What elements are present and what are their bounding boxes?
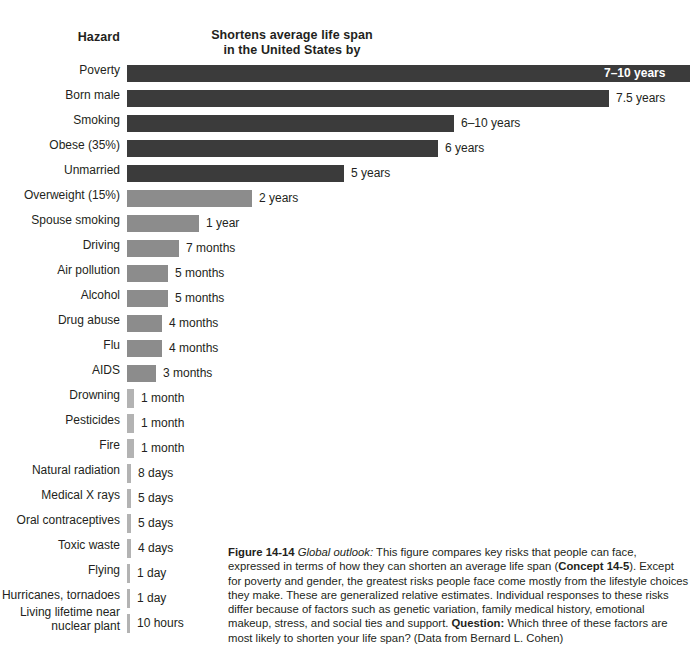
- bar-value-label: 4 months: [169, 341, 218, 356]
- hazard-label: Fire: [0, 438, 120, 452]
- bar-mid: [127, 315, 162, 332]
- chart-row: Spouse smoking1 year: [0, 213, 694, 238]
- bar-mid: [127, 240, 179, 257]
- bar-mid: [127, 215, 199, 232]
- chart-row: Overweight (15%)2 years: [0, 188, 694, 213]
- chart-row: Natural radiation8 days: [0, 463, 694, 488]
- chart-row: Born male7.5 years: [0, 88, 694, 113]
- figure-14-14: Hazard Shortens average life span in the…: [0, 0, 694, 652]
- chart-row: Oral contraceptives5 days: [0, 513, 694, 538]
- bar-light: [127, 439, 134, 458]
- bar-light: [127, 514, 131, 533]
- caption-lead-italic: Global outlook:: [298, 546, 373, 558]
- bar-value-label: 5 days: [138, 491, 173, 506]
- bar-mid: [127, 190, 252, 207]
- hazard-label: Born male: [0, 88, 120, 102]
- chart-row: Obese (35%)6 years: [0, 138, 694, 163]
- hazard-label: Poverty: [0, 63, 120, 77]
- hazard-label: Natural radiation: [0, 463, 120, 477]
- chart-row: Drug abuse4 months: [0, 313, 694, 338]
- caption-concept-ref: Concept 14-5: [558, 560, 629, 572]
- chart-header: Hazard Shortens average life span in the…: [0, 30, 694, 62]
- figure-caption: Figure 14-14 Global outlook: This figure…: [228, 545, 690, 645]
- bar-light: [127, 589, 130, 608]
- hazard-label: Overweight (15%): [0, 188, 120, 202]
- bar-value-label: 4 days: [138, 541, 173, 556]
- bar-value-label: 2 years: [259, 191, 298, 206]
- hazard-label: Flying: [0, 563, 120, 577]
- bar-value-label: 1 month: [141, 441, 184, 456]
- hazard-column-header: Hazard: [0, 30, 120, 44]
- hazard-label: Obese (35%): [0, 138, 120, 152]
- hazard-label: Drug abuse: [0, 313, 120, 327]
- hazard-label: Drowning: [0, 388, 120, 402]
- chart-row: Pesticides1 month: [0, 413, 694, 438]
- hazard-label: Spouse smoking: [0, 213, 120, 227]
- bar-dark: [127, 140, 438, 157]
- caption-figure-number: Figure 14-14: [228, 546, 295, 558]
- bar-value-label: 1 year: [206, 216, 239, 231]
- hazard-label: Driving: [0, 238, 120, 252]
- bar-value-label: 5 years: [351, 166, 390, 181]
- bar-light: [127, 464, 131, 483]
- bar-value-label: 7–10 years: [604, 66, 665, 81]
- hazard-label: Oral contraceptives: [0, 513, 120, 527]
- bar-value-label: 7.5 years: [616, 91, 665, 106]
- hazard-label: AIDS: [0, 363, 120, 377]
- caption-question-label: Question:: [452, 617, 505, 629]
- chart-row: Medical X rays5 days: [0, 488, 694, 513]
- bar-dark: [127, 165, 344, 182]
- bar-dark: [127, 115, 454, 132]
- hazard-label: Air pollution: [0, 263, 120, 277]
- hazard-label: Living lifetime near nuclear plant: [0, 606, 120, 633]
- bar-value-label: 10 hours: [137, 616, 184, 631]
- bar-value-label: 7 months: [186, 241, 235, 256]
- bar-value-label: 5 months: [175, 291, 224, 306]
- bar-light: [127, 564, 130, 583]
- axis-header-line2: in the United States by: [223, 43, 360, 57]
- bar-value-label: 1 month: [141, 416, 184, 431]
- bar-value-label: 4 months: [169, 316, 218, 331]
- bar-light: [127, 489, 131, 508]
- chart-row: Poverty7–10 years: [0, 63, 694, 88]
- bar-value-label: 3 months: [163, 366, 212, 381]
- bar-value-label: 1 day: [137, 566, 166, 581]
- bar-value-label: 5 days: [138, 516, 173, 531]
- axis-column-header: Shortens average life span in the United…: [127, 28, 457, 58]
- bar-value-label: 6–10 years: [461, 116, 520, 131]
- chart-row: Flu4 months: [0, 338, 694, 363]
- bar-light: [127, 614, 130, 633]
- bar-value-label: 8 days: [138, 466, 173, 481]
- hazard-label: Unmarried: [0, 163, 120, 177]
- bar-mid: [127, 340, 162, 357]
- chart-row: Smoking6–10 years: [0, 113, 694, 138]
- bar-mid: [127, 365, 156, 382]
- hazard-label: Toxic waste: [0, 538, 120, 552]
- axis-header-line1: Shortens average life span: [211, 28, 373, 42]
- bar-mid: [127, 290, 168, 307]
- bar-value-label: 1 day: [137, 591, 166, 606]
- bar-light: [127, 389, 134, 408]
- hazard-label: Flu: [0, 338, 120, 352]
- bar-value-label: 5 months: [175, 266, 224, 281]
- chart-row: Unmarried5 years: [0, 163, 694, 188]
- bar-value-label: 6 years: [445, 141, 484, 156]
- hazard-label: Hurricanes, tornadoes: [0, 588, 120, 602]
- chart-row: Air pollution5 months: [0, 263, 694, 288]
- bar-dark: [127, 90, 609, 107]
- hazard-label: Pesticides: [0, 413, 120, 427]
- chart-row: Driving7 months: [0, 238, 694, 263]
- bar-mid: [127, 265, 168, 282]
- bar-light: [127, 414, 134, 433]
- hazard-label: Smoking: [0, 113, 120, 127]
- chart-row: Fire1 month: [0, 438, 694, 463]
- chart-row: AIDS3 months: [0, 363, 694, 388]
- bar-value-label: 1 month: [141, 391, 184, 406]
- chart-row: Drowning1 month: [0, 388, 694, 413]
- hazard-label: Alcohol: [0, 288, 120, 302]
- bar-light: [127, 539, 131, 558]
- hazard-label: Medical X rays: [0, 488, 120, 502]
- chart-row: Alcohol5 months: [0, 288, 694, 313]
